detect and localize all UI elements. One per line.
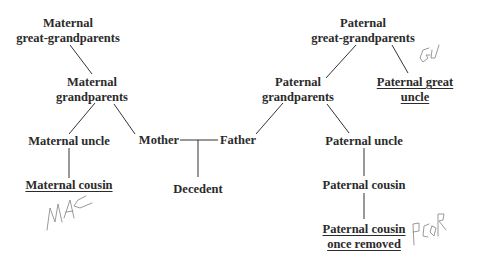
node-maternal-great-grandparents: Maternal great-grandparents: [8, 16, 128, 45]
node-decedent: Decedent: [168, 182, 228, 197]
label: Paternal cousin: [314, 178, 414, 193]
node-paternal-uncle: Paternal uncle: [314, 134, 414, 149]
edge-maternal-gp-to-uncle: [69, 103, 95, 134]
edge-paternal-gp-to-uncle: [327, 104, 349, 133]
label-line1: Maternal: [42, 75, 142, 90]
label: Maternal cousin: [19, 178, 119, 193]
node-father: Father: [219, 133, 257, 148]
node-mother: Mother: [138, 133, 180, 148]
label-line2: grandparents: [42, 90, 142, 105]
edge-maternal-ggp-to-gp: [70, 45, 92, 74]
edge-maternal-gp-to-mother: [114, 104, 135, 134]
handwriting-pcor: [413, 214, 446, 245]
edge-paternal-ggp-to-great-uncle: [392, 45, 408, 73]
handwriting-mac: [47, 196, 92, 230]
label-line2: uncle: [368, 90, 462, 105]
node-maternal-grandparents: Maternal grandparents: [42, 75, 142, 104]
label-line2: great-grandparents: [303, 31, 423, 46]
handwriting-gu: [420, 45, 439, 62]
label: Mother: [138, 133, 180, 148]
label-line2: grandparents: [250, 90, 346, 105]
label-line1: Paternal: [303, 16, 423, 31]
label-line1: Paternal great: [368, 75, 462, 90]
label: Father: [219, 133, 257, 148]
node-paternal-grandparents: Paternal grandparents: [250, 75, 346, 104]
node-paternal-cousin-once-removed: Paternal cousin once removed: [314, 222, 414, 251]
label-line1: Maternal: [8, 16, 128, 31]
label: Maternal uncle: [19, 134, 119, 149]
label-line2: great-grandparents: [8, 31, 128, 46]
node-paternal-cousin: Paternal cousin: [314, 178, 414, 193]
node-maternal-cousin: Maternal cousin: [19, 178, 119, 193]
label: Paternal uncle: [314, 134, 414, 149]
label: Decedent: [168, 182, 228, 197]
node-paternal-great-grandparents: Paternal great-grandparents: [303, 16, 423, 45]
edge-paternal-ggp-to-gp: [326, 45, 356, 78]
node-paternal-great-uncle: Paternal great uncle: [368, 75, 462, 104]
edge-paternal-gp-to-father: [256, 103, 283, 134]
label-line1: Paternal: [250, 75, 346, 90]
label-line2: once removed: [314, 237, 414, 252]
node-maternal-uncle: Maternal uncle: [19, 134, 119, 149]
label-line1: Paternal cousin: [314, 222, 414, 237]
